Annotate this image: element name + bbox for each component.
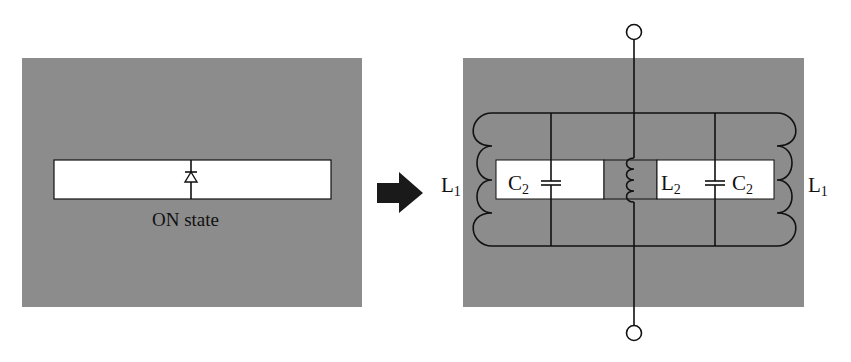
top-terminal-icon xyxy=(627,25,642,40)
on-state-label: ON state xyxy=(152,209,219,230)
left-panel: ON state xyxy=(22,58,362,307)
label-l1-left: L1 xyxy=(441,173,461,199)
right-arrow-icon xyxy=(377,172,423,213)
bottom-terminal-icon xyxy=(627,326,642,341)
diagram-canvas: ON state xyxy=(0,0,851,362)
label-l1-right: L1 xyxy=(808,173,828,199)
right-panel: L1 C2 L2 C2 L1 xyxy=(441,25,828,341)
